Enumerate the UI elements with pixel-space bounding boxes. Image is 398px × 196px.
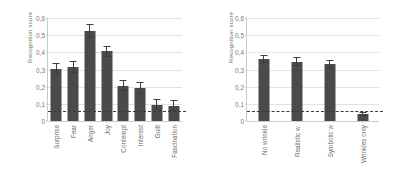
error-bar-cap-top (137, 82, 144, 83)
error-bar-cap-top (260, 55, 267, 56)
x-tick-label-text: Fear (70, 125, 77, 138)
error-bar (103, 46, 110, 57)
bar-item (149, 18, 166, 121)
bar-group-left (48, 18, 182, 121)
x-tick-label-text: Symbolic w (326, 125, 333, 157)
y-tick-label: 0,4 (235, 49, 244, 56)
plot-area-left: 00,10,20,30,40,50,6 (48, 18, 182, 121)
x-axis-labels-right: No wrinkleRealistic w.Symbolic wWrinkles… (247, 123, 379, 195)
y-tick-label: 0,6 (36, 15, 45, 22)
chart-panel-left: Recognition score 00,10,20,30,40,50,6 Su… (0, 0, 199, 196)
x-tick-label-text: Joy (103, 125, 110, 135)
error-bar-cap-top (120, 80, 127, 81)
y-tick-label: 0,6 (235, 15, 244, 22)
x-tick-label-text: Interest (137, 125, 144, 146)
error-bar-cap-top (153, 99, 160, 100)
x-tick-label: Surprise (56, 101, 63, 125)
y-tick-label: 0,1 (36, 100, 45, 107)
error-bar (70, 61, 77, 73)
x-axis-labels-left: SurpriseFearAngerJoyContemptInterestGuil… (48, 123, 182, 195)
y-tick-label: 0,2 (235, 83, 244, 90)
error-bar-cap-top (86, 24, 93, 25)
y-tick-label: 0,4 (36, 49, 45, 56)
x-tick-label: Fear (73, 112, 80, 125)
x-tick-label-text: Fascination (170, 125, 177, 158)
x-tick-label: Symbolic w (330, 93, 337, 125)
x-tick-label: No wrinkle (264, 95, 271, 125)
y-tick-label: 0,5 (36, 32, 45, 39)
error-bar-cap-top (293, 57, 300, 58)
chance-level-line-left (48, 111, 186, 112)
y-tick-label: 0,3 (36, 66, 45, 73)
x-tick-label: Wrinkles only (363, 87, 370, 125)
x-tick-label-text: Contempt (120, 125, 127, 153)
x-tick-label: Joy (107, 115, 114, 125)
x-tick-label: Fascination (174, 92, 181, 125)
error-bar-cap-bottom (293, 65, 300, 66)
error-bar-cap-bottom (70, 72, 77, 73)
y-tick-label: 0,2 (36, 83, 45, 90)
y-axis-label-left: Recognition score (26, 0, 33, 86)
x-tick-label: Contempt (123, 97, 130, 125)
x-tick-label: Anger (90, 108, 97, 125)
error-bar-cap-top (326, 60, 333, 61)
chart-panel-right: Recognition score 00,10,20,30,40,50,6 No… (199, 0, 398, 196)
y-tick-label: 0,5 (235, 32, 244, 39)
error-bar (260, 55, 267, 63)
y-tick-label: 0 (41, 118, 45, 125)
bar-item (65, 18, 82, 121)
error-bar-cap-bottom (103, 56, 110, 57)
error-bar (120, 80, 127, 91)
bar-item (98, 18, 115, 121)
x-tick-label-text: Guilt (153, 125, 160, 138)
error-bar-cap-top (53, 63, 60, 64)
x-tick-label-text: Realistic w. (293, 125, 300, 157)
x-tick-label-text: Surprise (53, 125, 60, 149)
y-tick-label: 0,1 (235, 100, 244, 107)
error-bar-cap-top (70, 61, 77, 62)
x-tick-label-text: Anger (86, 125, 93, 142)
error-bar-cap-bottom (120, 90, 127, 91)
error-bar-cap-top (103, 46, 110, 47)
x-tick-label: Interest (140, 104, 147, 125)
error-bar-line (89, 24, 90, 38)
error-bar (293, 57, 300, 66)
error-bar (53, 63, 60, 75)
x-tick-label: Realistic w. (297, 93, 304, 125)
y-tick-label: 0 (240, 118, 244, 125)
error-bar-cap-bottom (86, 37, 93, 38)
y-tick-label: 0,3 (235, 66, 244, 73)
y-axis-label-right: Recognition score (227, 0, 234, 86)
error-bar (153, 99, 160, 110)
x-tick-label-text: No wrinkle (260, 125, 267, 155)
figure-recognition-scores: Recognition score 00,10,20,30,40,50,6 Su… (0, 0, 398, 196)
bar-item (82, 18, 99, 121)
error-bar-cap-bottom (260, 62, 267, 63)
error-bar-cap-bottom (326, 68, 333, 69)
x-tick-label: Guilt (157, 112, 164, 125)
error-bar (137, 82, 144, 94)
error-bar (86, 24, 93, 38)
error-bar (326, 60, 333, 69)
error-bar-cap-bottom (137, 93, 144, 94)
error-bar-cap-bottom (53, 74, 60, 75)
x-tick-label-text: Wrinkles only (359, 125, 366, 163)
